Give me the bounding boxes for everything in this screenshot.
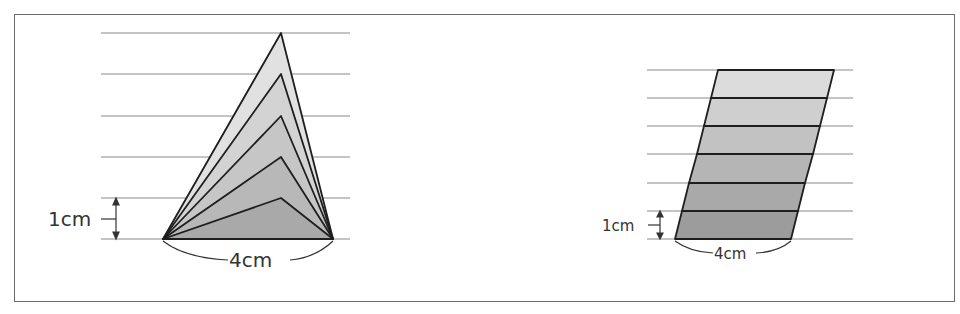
left-height-marker bbox=[101, 198, 119, 239]
diagram-canvas: 1cm 4cm 1cm 4c bbox=[0, 0, 960, 314]
strip-1 bbox=[675, 211, 798, 239]
right-base-label: 4cm bbox=[714, 245, 746, 263]
left-figure: 1cm 4cm bbox=[48, 33, 350, 272]
left-height-label: 1cm bbox=[48, 207, 91, 231]
left-base-label: 4cm bbox=[229, 248, 272, 272]
right-figure: 1cm 4cm bbox=[602, 70, 853, 263]
strip-3 bbox=[689, 154, 813, 183]
right-height-label: 1cm bbox=[602, 217, 634, 235]
parallelogram-strips bbox=[675, 70, 834, 239]
strip-2 bbox=[682, 183, 805, 211]
clipped-caption bbox=[14, 306, 274, 314]
strip-5 bbox=[704, 98, 827, 126]
nested-triangles bbox=[163, 33, 333, 239]
strip-6 bbox=[711, 70, 834, 98]
right-height-marker bbox=[648, 211, 663, 239]
strip-4 bbox=[697, 126, 820, 154]
